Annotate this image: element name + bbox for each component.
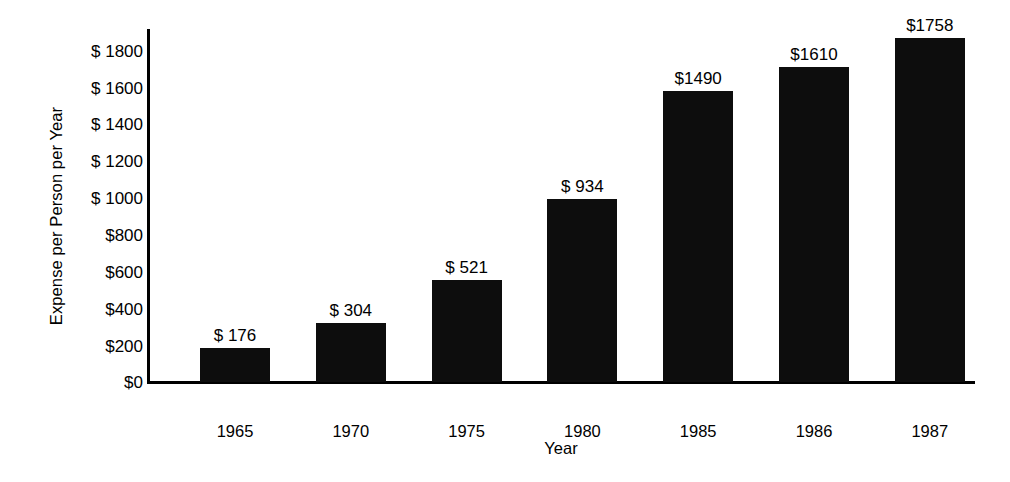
bar-1986[interactable] [779,67,849,382]
bar-group-1975[interactable]: $ 521 [432,30,502,382]
y-tick-label-600: $600 [43,264,143,281]
bar-1965[interactable] [200,348,270,382]
bar-value-label-1980: $ 934 [517,177,647,196]
y-tick-label-1200: $ 1200 [43,153,143,170]
bar-1980[interactable] [547,199,617,382]
bar-chart: Expense per Person per Year $ 1800 $ 160… [0,0,1010,482]
bar-value-label-1986: $1610 [749,45,879,64]
plot-area: $ 1761965$ 3041970$ 5211975$ 9341980$149… [147,30,975,382]
bar-value-label-1975: $ 521 [402,258,532,277]
bar-value-label-1987: $1758 [865,16,995,35]
bar-group-1986[interactable]: $1610 [779,30,849,382]
y-axis-tick-labels: $ 1800 $ 1600 $ 1400 $ 1200 $ 1000 $800 … [40,0,143,482]
bar-group-1987[interactable]: $1758 [895,30,965,382]
bar-group-1965[interactable]: $ 176 [200,30,270,382]
bar-1975[interactable] [432,280,502,382]
y-tick-label-400: $400 [43,301,143,318]
bar-1970[interactable] [316,323,386,382]
bar-1985[interactable] [663,91,733,382]
y-tick-label-1800: $ 1800 [43,43,143,60]
bar-group-1970[interactable]: $ 304 [316,30,386,382]
y-tick-label-0: $0 [43,374,143,391]
bar-value-label-1970: $ 304 [286,301,416,320]
y-tick-label-800: $800 [43,227,143,244]
y-tick-label-1000: $ 1000 [43,190,143,207]
x-axis-title: Year [147,437,975,459]
y-tick-label-1400: $ 1400 [43,116,143,133]
bar-group-1980[interactable]: $ 934 [547,30,617,382]
y-tick-label-1600: $ 1600 [43,80,143,97]
y-tick-label-200: $200 [43,338,143,355]
bar-value-label-1985: $1490 [633,69,763,88]
bar-value-label-1965: $ 176 [170,326,300,345]
bar-1987[interactable] [895,38,965,382]
bar-group-1985[interactable]: $1490 [663,30,733,382]
